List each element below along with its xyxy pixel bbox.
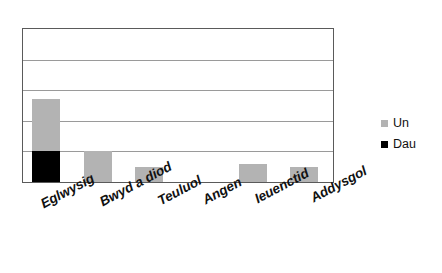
legend-swatch-icon: [381, 141, 388, 148]
bar-segment[interactable]: [290, 167, 318, 182]
bar-group[interactable]: [135, 167, 163, 182]
bar-segment[interactable]: [32, 151, 60, 182]
bar-group[interactable]: [290, 167, 318, 182]
bar-group[interactable]: [84, 151, 112, 182]
legend-label: Un: [393, 117, 409, 130]
plot-area: [22, 28, 334, 183]
bar-chart-figure: EglwysigBwyd a diodTeuluolAngenIeuenctid…: [0, 0, 442, 273]
legend: UnDau: [381, 113, 439, 155]
bar-segment[interactable]: [239, 164, 267, 182]
legend-swatch-icon: [381, 120, 388, 127]
bar-segment[interactable]: [84, 151, 112, 182]
bar-group[interactable]: [239, 164, 267, 182]
bars-layer: [23, 29, 333, 182]
bar-group[interactable]: [32, 99, 60, 182]
legend-label: Dau: [393, 138, 416, 151]
bar-segment[interactable]: [135, 167, 163, 182]
legend-item[interactable]: Dau: [381, 134, 439, 155]
legend-item[interactable]: Un: [381, 113, 439, 134]
bar-segment[interactable]: [32, 99, 60, 151]
